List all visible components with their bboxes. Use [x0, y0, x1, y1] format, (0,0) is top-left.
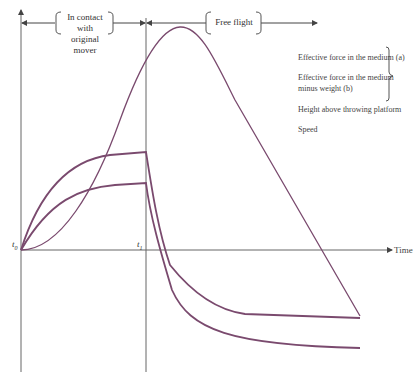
t0-label: t0 [12, 239, 18, 251]
phase-label-free-flight: Free flight [209, 17, 259, 28]
phase-contact-line1: In contact with [60, 12, 110, 34]
height-curve [21, 27, 360, 316]
t0-sub: 0 [15, 245, 18, 251]
force-a-curve [21, 152, 360, 318]
legend-speed: Speed [298, 124, 318, 135]
legend-force-b: Effective force in the medium minus weig… [298, 72, 394, 94]
t1-label: t1 [137, 239, 143, 251]
phase-label-contact: In contact with original mover [60, 12, 110, 56]
force-b-curve [21, 183, 360, 348]
legend-force-b-line2: minus weight (b) [298, 83, 394, 94]
legend-force-a: Effective force in the medium (a) [298, 52, 405, 63]
legend-force-b-line1: Effective force in the medium [298, 72, 394, 83]
x-axis-label: Time [394, 245, 413, 256]
phase-contact-line2: original mover [60, 34, 110, 56]
legend-height: Height above throwing platform [298, 104, 401, 115]
t1-sub: 1 [140, 245, 143, 251]
